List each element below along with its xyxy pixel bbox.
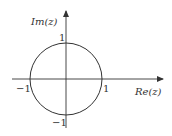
complex-plane-diagram: Im(z) Re(z) 1 −1 1 −1 (0, 0, 172, 136)
x-axis-label: Re(z) (134, 86, 162, 97)
tick-x-neg: −1 (16, 83, 31, 94)
tick-y-neg: −1 (52, 117, 67, 128)
tick-y-pos: 1 (59, 32, 65, 43)
tick-x-pos: 1 (103, 83, 109, 94)
y-axis-label: Im(z) (30, 16, 58, 27)
